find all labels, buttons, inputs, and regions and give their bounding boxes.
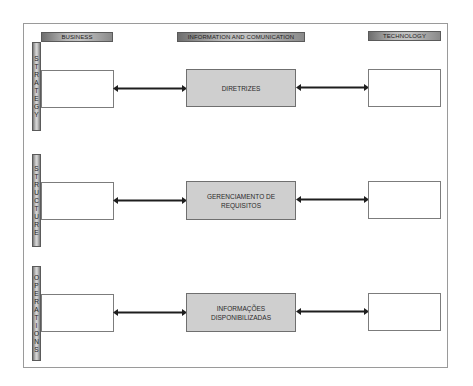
center-box-text: INFORMAÇÕES [211, 304, 271, 313]
row-label-letter: E [34, 229, 38, 237]
row-label-operations: O P E R A T I O N S [32, 266, 41, 361]
row-label-letter: T [35, 173, 39, 181]
column-header-information-communication: INFORMATION AND COMUNICATION [177, 32, 305, 42]
row-label-letter: S [34, 346, 38, 354]
double-arrow-icon [296, 308, 369, 315]
center-box-text: DISPONIBILIZADAS [211, 313, 271, 322]
row-label-letter: T [35, 87, 39, 95]
row-label-letter: G [34, 103, 39, 111]
row-label-letter: P [34, 282, 38, 290]
row-label-letter: O [34, 330, 39, 338]
business-box-structure [41, 182, 114, 220]
center-box-diretrizes: DIRETRIZES [186, 69, 296, 107]
technology-box-structure [368, 181, 441, 219]
row-label-letter: I [36, 322, 38, 330]
double-arrow-icon [113, 197, 187, 204]
row-label-strategy: S T R A T E G Y [32, 42, 41, 131]
row-label-letter: Y [34, 111, 38, 119]
technology-box-strategy [368, 69, 441, 107]
double-arrow-icon [113, 85, 187, 92]
column-header-business: BUSINESS [41, 32, 113, 42]
row-label-letter: R [34, 298, 39, 306]
row-label-letter: E [34, 290, 38, 298]
row-label-letter: T [35, 314, 39, 322]
row-label-letter: R [34, 221, 39, 229]
row-label-letter: C [34, 197, 39, 205]
row-label-letter: A [34, 306, 38, 314]
center-box-gerenciamento-de-requisitos: GERENCIAMENTO DE REQUISITOS [186, 181, 296, 220]
row-label-letter: R [34, 71, 39, 79]
row-label-letter: A [34, 79, 38, 87]
column-header-technology: TECHNOLOGY [368, 31, 441, 41]
row-label-letter: T [35, 205, 39, 213]
center-box-informacoes-disponibilizadas: INFORMAÇÕES DISPONIBILIZADAS [186, 293, 296, 332]
center-box-text: GERENCIAMENTO DE [207, 192, 275, 201]
row-label-letter: U [34, 213, 39, 221]
row-label-letter: N [34, 338, 39, 346]
center-box-text: REQUISITOS [207, 201, 275, 210]
row-label-letter: E [34, 95, 38, 103]
row-label-letter: U [34, 189, 39, 197]
center-box-text: DIRETRIZES [222, 84, 261, 93]
double-arrow-icon [296, 196, 369, 203]
technology-box-operations [368, 293, 441, 331]
row-label-letter: T [35, 63, 39, 71]
double-arrow-icon [296, 84, 369, 91]
row-label-letter: S [34, 165, 38, 173]
double-arrow-icon [113, 309, 187, 316]
row-label-letter: O [34, 274, 39, 282]
row-label-letter: S [34, 55, 38, 63]
business-box-operations [41, 294, 114, 332]
row-label-structure: S T R U C T U R E [32, 154, 41, 247]
business-box-strategy [41, 70, 114, 108]
row-label-letter: R [34, 181, 39, 189]
